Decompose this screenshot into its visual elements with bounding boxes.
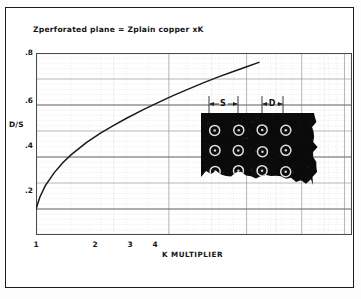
- y-tick-label-3: .2: [15, 186, 33, 195]
- perforated-plane-photo: [201, 113, 318, 203]
- dimension-label-d: D: [267, 99, 277, 108]
- x-tick-label-0: 1: [29, 240, 43, 249]
- x-tick-label-2: 3: [123, 240, 137, 249]
- x-tick-label-1: 2: [88, 240, 102, 249]
- figure-page: Zperforated plane = Zplain copper xK D/S…: [0, 0, 361, 299]
- chart-title: Zperforated plane = Zplain copper xK: [33, 25, 204, 34]
- y-axis-label: D/S: [9, 120, 24, 129]
- y-tick-label-2: .4: [15, 141, 33, 150]
- x-tick-label-3: 4: [148, 240, 162, 249]
- dimension-label-s: S: [218, 99, 228, 108]
- x-axis-label: K MULTIPLIER: [162, 250, 223, 259]
- y-tick-label-0: .8: [15, 48, 33, 57]
- y-tick-label-1: .6: [15, 96, 33, 105]
